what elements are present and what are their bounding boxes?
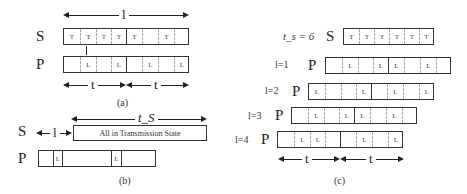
slot-cell: L [386, 108, 402, 123]
slot-cell: L [373, 58, 388, 73]
slot-cell: L [342, 58, 358, 73]
slot-cell [96, 57, 111, 72]
slot-cell [404, 58, 420, 73]
slot-cell: T [80, 29, 96, 44]
p-timeline-box: L L [38, 150, 156, 167]
slot-cell: T [374, 29, 389, 44]
ts-label: t_S [135, 111, 158, 124]
slot-cell: L [142, 57, 158, 72]
slot-cell: L [388, 132, 403, 147]
slot-cell [174, 29, 189, 44]
slot-cell: L [356, 132, 372, 147]
slot-cell: L [309, 84, 325, 99]
arrow-right-icon [398, 156, 404, 162]
arrow-right-icon [183, 12, 189, 18]
transmission-state-text: All in Transmission State [74, 126, 206, 140]
slot-cell [278, 132, 294, 147]
slot-cell: L [354, 108, 370, 123]
slot-cell: L [339, 108, 354, 123]
arrow-right-icon [201, 116, 207, 122]
offset-label: l=1 [275, 60, 288, 70]
row-label-s: S [36, 29, 44, 44]
slot-cell [325, 132, 340, 147]
p-timeline-box: L L L L [63, 56, 189, 73]
slot-cell [142, 29, 158, 44]
row-label-s: S [326, 29, 334, 44]
slot-cell: L [388, 58, 404, 73]
arrow-right-icon [66, 130, 72, 136]
t-label: t [88, 78, 98, 91]
offset-label: l=4 [235, 135, 248, 145]
slot-cell: T [126, 29, 142, 44]
slot-cell: T [389, 29, 404, 44]
offset-label: l=3 [248, 111, 261, 121]
slot-cell [341, 84, 356, 99]
listen-cell: L [111, 151, 122, 166]
slot-cell: L [387, 84, 403, 99]
slot-cell: T [158, 29, 174, 44]
t-label: t [151, 78, 161, 91]
slot-cell [325, 84, 341, 99]
slot-cell: L [111, 57, 126, 72]
slot-cell [358, 58, 373, 73]
slot-cell [324, 108, 339, 123]
row-label-p: P [275, 108, 283, 123]
t-label: t [302, 152, 312, 165]
slot-cell [436, 58, 451, 73]
slot-cell [126, 57, 142, 72]
slot-cell [340, 132, 356, 147]
slot-cell: T [359, 29, 374, 44]
s-timeline-box: T T T T T T [63, 28, 189, 45]
p-timeline-box: L L L L [291, 107, 417, 124]
row-label-p: P [292, 84, 300, 99]
row-label-p: P [18, 151, 26, 166]
slot-cell [402, 108, 417, 123]
caption-a: (a) [117, 98, 128, 108]
caption-b: (b) [119, 176, 131, 186]
slot-cell: T [404, 29, 419, 44]
slot-cell: L [356, 84, 371, 99]
sync-arrow [86, 46, 87, 55]
slot-cell [372, 132, 388, 147]
offset-label: l=2 [265, 86, 278, 96]
s-transmission-box: All in Transmission State [73, 125, 207, 141]
p-timeline-box: L L L L [277, 131, 403, 148]
row-label-s: S [18, 124, 26, 139]
slot-cell: T [96, 29, 111, 44]
slot-cell: L [420, 58, 436, 73]
ts-value-label: t_s = 6 [283, 31, 314, 41]
slot-cell [370, 108, 386, 123]
slot-cell: L [80, 57, 96, 72]
slot-cell [292, 108, 308, 123]
slot-cell: T [344, 29, 359, 44]
caption-c: (c) [334, 176, 345, 186]
slot-cell: L [294, 132, 310, 147]
offset-label: l [50, 126, 60, 139]
slot-cell [64, 57, 80, 72]
slot-cell [371, 84, 387, 99]
arrow-right-icon [183, 82, 189, 88]
row-label-p: P [261, 132, 269, 147]
p-timeline-box: L L L L [308, 83, 434, 100]
slot-cell [326, 58, 342, 73]
row-label-p: P [36, 57, 44, 72]
slot-cell [403, 84, 419, 99]
slot-cell: L [308, 108, 324, 123]
span-label: l [119, 8, 129, 21]
slot-cell: T [64, 29, 80, 44]
s-timeline-box: T T T T T T [343, 28, 434, 45]
slot-cell: L [310, 132, 325, 147]
slot-cell: L [174, 57, 189, 72]
p-timeline-box: L L L L [325, 57, 451, 74]
listen-cell: L [53, 151, 63, 166]
slot-cell: T [419, 29, 433, 44]
slot-cell [158, 57, 174, 72]
slot-cell: T [111, 29, 126, 44]
slot-cell: L [419, 84, 434, 99]
t-label: t [366, 152, 376, 165]
row-label-p: P [308, 58, 316, 73]
